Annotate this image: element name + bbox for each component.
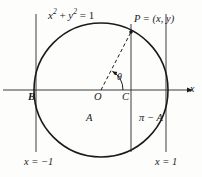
- point-c-label: C: [122, 92, 129, 103]
- x-equals-neg-one-label: x = −1: [24, 157, 53, 168]
- x-equals-one-label: x = 1: [155, 157, 177, 168]
- geometry-figure: x2 + y2 = 1 P = (x, y) B O C θ x A π − A…: [0, 0, 202, 177]
- point-marker-p: [129, 30, 133, 34]
- figure-canvas: [0, 0, 202, 177]
- region-pi-minus-a-label: π − A: [139, 113, 163, 124]
- x-axis-label: x: [190, 84, 194, 94]
- point-p-label: P = (x, y): [134, 14, 174, 25]
- point-b-label: B: [28, 92, 35, 103]
- origin-o-label: O: [94, 92, 102, 103]
- circle-equation-label: x2 + y2 = 1: [48, 10, 94, 21]
- radius-dashed-op: [101, 32, 131, 90]
- angle-theta-label: θ: [117, 72, 122, 82]
- region-a-label: A: [86, 113, 92, 124]
